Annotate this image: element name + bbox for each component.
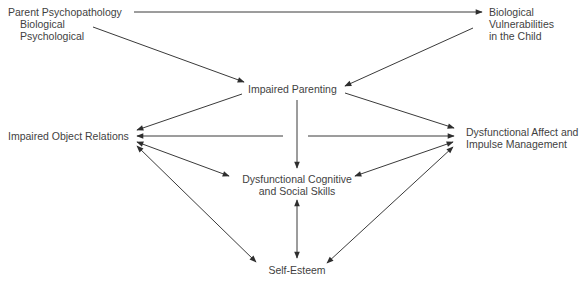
node-dysfunctional-affect: Dysfunctional Affect and Impulse Managem… (466, 126, 578, 150)
node-impaired-parenting-label: Impaired Parenting (248, 83, 337, 95)
edge-affect-cognitive (355, 142, 453, 176)
node-bio-vuln-line3: in the Child (489, 30, 554, 42)
edge-vulnerabilities-to-parenting (345, 28, 473, 86)
edge-object-relations-self-esteem (137, 146, 256, 262)
node-impaired-object-relations-label: Impaired Object Relations (8, 130, 129, 142)
node-dysfunctional-affect-line2: Impulse Management (466, 138, 578, 150)
node-impaired-parenting: Impaired Parenting (248, 83, 337, 95)
node-dysfunctional-cognitive: Dysfunctional Cognitive and Social Skill… (232, 173, 362, 197)
edge-affect-self-esteem (327, 147, 453, 263)
node-self-esteem: Self-Esteem (247, 264, 347, 276)
node-self-esteem-label: Self-Esteem (247, 264, 347, 276)
node-parent-psychopathology-title: Parent Psychopathology (8, 6, 122, 18)
node-dysfunctional-cognitive-line1: Dysfunctional Cognitive (232, 173, 362, 185)
edge-parenting-to-object-relations (137, 94, 242, 130)
node-dysfunctional-affect-line1: Dysfunctional Affect and (466, 126, 578, 138)
node-parent-psychopathology-psychological: Psychological (8, 30, 122, 42)
node-bio-vuln-line1: Biological (489, 6, 554, 18)
node-impaired-object-relations: Impaired Object Relations (8, 130, 129, 142)
node-dysfunctional-cognitive-line2: and Social Skills (232, 185, 362, 197)
diagram-canvas: Parent Psychopathology Biological Psycho… (0, 0, 585, 281)
node-biological-vulnerabilities: Biological Vulnerabilities in the Child (489, 6, 554, 42)
node-parent-psychopathology-biological: Biological (8, 18, 122, 30)
edge-parenting-to-affect (345, 93, 454, 128)
node-parent-psychopathology: Parent Psychopathology Biological Psycho… (8, 6, 122, 42)
node-bio-vuln-line2: Vulnerabilities (489, 18, 554, 30)
